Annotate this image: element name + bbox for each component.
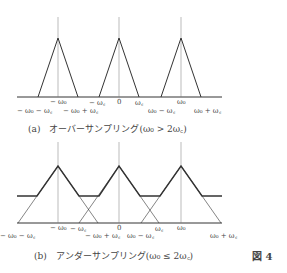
panel-b-plot [17, 142, 222, 223]
label-a-zero: 0 [117, 98, 121, 106]
caption-b: (b) アンダーサンプリング(ω₀ ≤ 2ω꜀) [34, 249, 193, 262]
label-a-w0: ω₀ [177, 98, 186, 106]
label-a-neg-w0: − ω₀ [50, 98, 67, 106]
label-b-w0-plus-wc: ω₀ + ω꜀ [210, 231, 237, 240]
label-b-wc: ω꜀ [155, 224, 163, 233]
label-b-neg-w0-minus-wc: − ω₀ − ω꜀ [0, 231, 35, 240]
label-a-wc: ω꜀ [135, 98, 143, 107]
caption-a: (a) オーバーサンプリング(ω₀ > 2ω꜀) [28, 122, 187, 135]
label-a-w0-minus-wc: ω₀ − ω꜀ [148, 106, 175, 115]
label-a-neg-w0-minus-wc: − ω₀ − ω꜀ [17, 106, 52, 115]
label-b-neg-wc: − ω꜀ [70, 224, 86, 233]
panel-a-plot [17, 17, 222, 97]
label-b-w0-minus-wc: ω₀ − ω꜀ [127, 231, 154, 240]
figure-label: 図 4 [252, 248, 272, 263]
label-b-neg-w0-plus-wc: − ω₀ + ω꜀ [85, 231, 120, 240]
label-b-neg-w0: − ω₀ [50, 224, 67, 232]
label-b-w0: ω₀ [177, 224, 186, 232]
label-a-neg-w0-plus-wc: − ω₀ + ω꜀ [63, 106, 98, 115]
label-a-w0-plus-wc: ω₀ + ω꜀ [194, 106, 221, 115]
